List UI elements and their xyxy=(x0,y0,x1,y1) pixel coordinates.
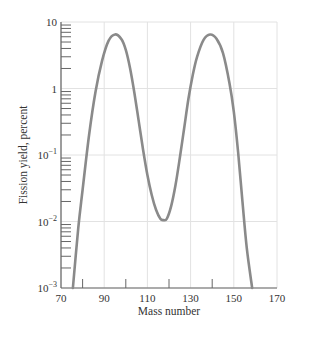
x-tick-label: 130 xyxy=(182,292,199,304)
y-axis-label: Fission yield, percent xyxy=(17,105,30,204)
fission-yield-chart: 10110−110−210−3 7090110130150170 Mass nu… xyxy=(0,0,311,339)
x-tick-label: 70 xyxy=(56,292,68,304)
x-tick-label: 150 xyxy=(226,292,243,304)
fission-yield-curve xyxy=(73,34,252,288)
x-tick-label: 110 xyxy=(139,292,156,304)
x-axis-label: Mass number xyxy=(138,305,200,317)
x-tick-label: 90 xyxy=(99,292,111,304)
y-tick-label: 1 xyxy=(52,83,58,95)
grid xyxy=(61,22,277,288)
x-tick-label: 170 xyxy=(269,292,286,304)
y-tick-label: 10−1 xyxy=(37,147,57,161)
y-tick-label: 10−3 xyxy=(37,280,57,294)
y-tick-label: 10 xyxy=(46,16,58,28)
y-tick-label: 10−2 xyxy=(37,214,57,228)
